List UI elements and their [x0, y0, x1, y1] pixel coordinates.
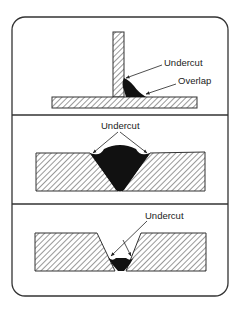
right-plate-v — [126, 233, 206, 271]
left-plate-v — [35, 233, 115, 271]
label-undercut-1: Undercut — [164, 57, 203, 68]
arrow-undercut-1 — [126, 65, 162, 78]
weld-defects-diagram: Undercut Overlap Undercut Undercut — [0, 0, 241, 311]
panel-groove-weld-root: Undercut — [35, 210, 206, 271]
base-plate — [52, 97, 197, 108]
label-undercut-2: Undercut — [101, 120, 140, 131]
panel-fillet-weld: Undercut Overlap — [52, 32, 211, 108]
panel-groove-weld-large: Undercut — [36, 120, 205, 192]
vertical-plate — [113, 32, 124, 97]
arrow-overlap — [146, 84, 176, 94]
label-overlap: Overlap — [178, 75, 211, 86]
arrow-undercut-3-right — [123, 240, 131, 256]
label-undercut-3: Undercut — [145, 210, 184, 221]
fillet-weld-bead — [123, 78, 147, 97]
